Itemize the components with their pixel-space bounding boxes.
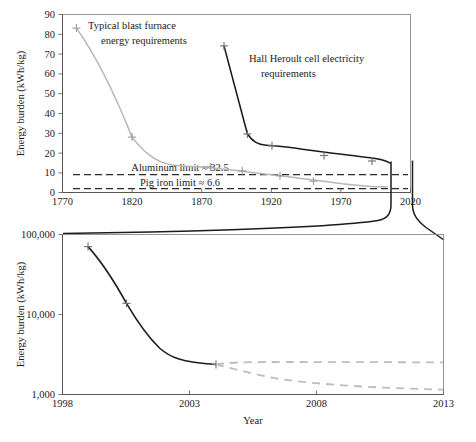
hall-heroult-annotation-line1: Hall Heroult cell electricity [249,53,365,64]
top-ytick-30: 30 [45,128,56,139]
projection-upper-curve [216,362,443,365]
bottom-plot-frame [63,235,444,395]
blast-furnace-annotation-line2: energy requirements [101,35,187,46]
aluminum-limit-label: Aluminum limit ≈ 32.5 [131,162,228,173]
top-xtick-2020: 2020 [400,196,421,207]
blast-furnace-curve [76,28,387,187]
figure-canvas: 90 80 70 60 50 40 30 20 10 0 Energy burd… [0,0,476,442]
top-ytick-20: 20 [45,148,56,159]
top-ytick-40: 40 [45,108,56,119]
top-ytick-80: 80 [45,29,56,40]
top-chart: 90 80 70 60 50 40 30 20 10 0 Energy burd… [15,9,421,207]
hall-heroult-annotation-line2: requirements [261,68,316,79]
bottom-y-ticks [59,235,63,395]
chart-figure: 90 80 70 60 50 40 30 20 10 0 Energy burd… [0,0,476,442]
bottom-chart: 100,000 10,000 1,000 Energy burden (kWh/… [15,229,454,426]
bottom-x-axis-title: Year [243,415,263,426]
bottom-xtick-1998: 1998 [52,398,73,409]
top-y-ticks [59,15,63,193]
bottom-xtick-2003: 2003 [179,398,200,409]
bottom-ytick-100000: 100,000 [21,229,55,240]
blast-furnace-annotation-line1: Typical blast furnace [88,20,176,31]
bottom-y-axis-title: Energy burden (kWh/kg) [15,261,27,367]
pig-iron-limit-label: Pig iron limit ≈ 6.6 [140,177,220,188]
projection-lower-curve [216,365,443,390]
measured-curve [88,247,216,365]
top-xtick-1970: 1970 [330,196,351,207]
bottom-xtick-2008: 2008 [306,398,327,409]
bottom-ytick-10000: 10,000 [26,309,55,320]
top-xtick-1820: 1820 [122,196,143,207]
top-ytick-60: 60 [45,68,56,79]
bottom-xtick-2013: 2013 [433,398,454,409]
top-y-axis-title: Energy burden (kWh/kg) [15,50,27,156]
top-x-ticks [63,189,411,193]
top-ytick-50: 50 [45,88,56,99]
top-xtick-1770: 1770 [52,196,73,207]
top-ytick-70: 70 [45,49,56,60]
bottom-x-ticks [63,391,444,395]
top-xtick-1920: 1920 [261,196,282,207]
top-ytick-10: 10 [45,167,56,178]
measured-curve-markers [84,243,220,369]
top-ytick-90: 90 [45,9,56,20]
top-xtick-1870: 1870 [191,196,212,207]
